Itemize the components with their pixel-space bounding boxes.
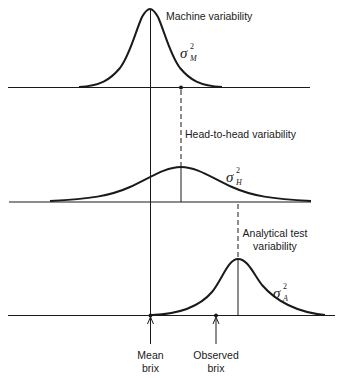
diagram-canvas: [0, 0, 339, 378]
observed-brix-label: Observed brix: [191, 349, 241, 375]
observed-brix-line1: Observed: [191, 349, 241, 362]
mean-brix-line1: Mean: [130, 349, 171, 362]
machine-variability-label: Machine variability: [166, 10, 252, 23]
observed-brix-line2: brix: [191, 362, 241, 375]
analytical-label-line1: Analytical test: [242, 227, 308, 240]
sigma-a-subscript: A: [283, 291, 288, 306]
sigma-a-symbol: σ 2 A: [273, 286, 280, 301]
sigma-m-symbol: σ 2 M: [180, 46, 187, 61]
sigma-m-base: σ: [180, 45, 187, 61]
head-variability-label: Head-to-head variability: [185, 128, 296, 141]
mean-brix-label: Mean brix: [130, 349, 171, 375]
sigma-h-base: σ: [226, 169, 233, 185]
mean-brix-line2: brix: [130, 362, 171, 375]
sigma-h-subscript: H: [236, 175, 242, 190]
sigma-h-symbol: σ 2 H: [226, 170, 233, 185]
analytical-label-line2: variability: [242, 240, 308, 253]
machine-mean-dot: [179, 86, 183, 90]
sigma-a-base: σ: [273, 285, 280, 301]
analytical-variability-label: Analytical test variability: [242, 227, 308, 253]
sigma-m-subscript: M: [190, 51, 197, 66]
variance-components-diagram: Machine variability σ 2 M Head-to-head v…: [0, 0, 339, 378]
